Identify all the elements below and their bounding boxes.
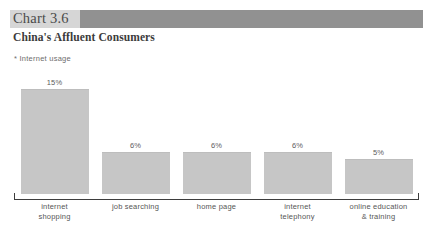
axis-cap-right (418, 193, 419, 200)
bar-rect (102, 152, 170, 194)
bar-rect (345, 159, 413, 194)
bar-group: 6% (183, 72, 251, 194)
category-label: job searching (102, 202, 170, 221)
category-label: internettelephony (264, 202, 332, 221)
bar-group: 6% (264, 72, 332, 194)
bar-rect (264, 152, 332, 194)
category-label: home page (183, 202, 251, 221)
chart-number: Chart 3.6 (13, 9, 83, 28)
bar-value-label: 6% (211, 141, 222, 150)
bars-row: 15% 6% 6% 6% 5% (14, 72, 419, 194)
bar-rect (183, 152, 251, 194)
bar-rect (21, 89, 89, 194)
bar-value-label: 6% (292, 141, 303, 150)
plot-area: 15% 6% 6% 6% 5% (14, 72, 419, 194)
bar-group: 6% (102, 72, 170, 194)
bar-group: 5% (345, 72, 413, 194)
bar-group: 15% (21, 72, 89, 194)
chart-subtitle: China's Affluent Consumers (13, 31, 155, 43)
bar-value-label: 6% (130, 141, 141, 150)
usage-note: * Internet usage (14, 54, 71, 63)
bar-value-label: 15% (47, 78, 63, 87)
category-label: online education& training (345, 202, 413, 221)
bar-value-label: 5% (373, 148, 384, 157)
category-label: internetshopping (21, 202, 89, 221)
axis-line (14, 199, 419, 200)
x-axis (14, 193, 419, 201)
header-accent-bar (80, 10, 423, 28)
axis-cap-left (14, 193, 15, 200)
category-labels-row: internetshopping job searching home page… (14, 202, 419, 221)
